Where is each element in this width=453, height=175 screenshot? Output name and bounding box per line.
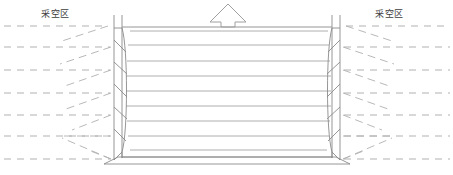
goaf-right-fracture [346,26,392,41]
mining-panel-diagram: 采空区 采空区 [0,0,453,175]
goaf-left-dashed-strata [4,26,110,159]
right-pillar-hatch [328,129,340,141]
goaf-right-fracture [343,47,394,64]
working-face-panel-frame [122,27,332,157]
goaf-right-fracture [343,70,392,87]
left-pillar-hatch [114,129,126,141]
goaf-left-fracture [62,70,111,87]
goaf-left-fracture [88,150,111,159]
goaf-right-fracture-lines [343,26,394,159]
right-pillar-hatch [327,62,340,74]
goaf-right-label: 采空区 [375,9,404,20]
goaf-left-label: 采空区 [41,9,70,20]
right-pillar-bottom-bevel [332,152,340,160]
right-support-pillar [327,15,340,160]
goaf-left-fracture-lines [60,26,111,159]
diagram-canvas [0,0,453,175]
left-pillar-hatch [114,62,127,74]
left-support-pillar [114,15,127,160]
goaf-left-fracture [72,115,111,130]
goaf-right-fracture [343,115,382,130]
right-pillar-hatch [327,107,340,119]
advance-direction-arrow-icon [210,4,246,27]
panel-strata-lines [126,31,331,150]
goaf-left-fracture [60,47,111,64]
left-pillar-hatch [114,107,127,119]
left-pillar-bottom-bevel [114,152,122,160]
goaf-right-dashed-strata [344,26,450,159]
goaf-left-fracture [66,93,111,109]
goaf-right-fracture [343,93,388,109]
right-pillar-hatch [327,84,340,97]
floor-slab [104,157,350,164]
arrow-up-outline [210,4,246,27]
goaf-left-fracture [62,26,108,41]
left-pillar-hatch [114,84,127,97]
goaf-right-fracture [343,150,366,159]
